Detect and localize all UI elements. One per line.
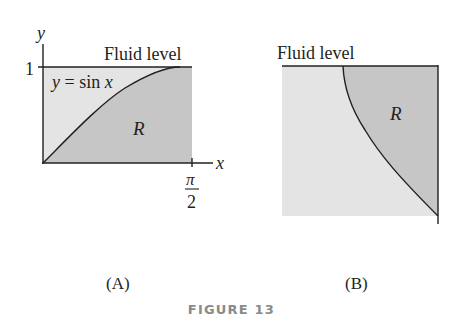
- panel-a-x-axis-label: x: [215, 153, 224, 173]
- curve-label-y: y: [50, 72, 60, 92]
- figure-13-diagram: y 1 Fluid level y = sin x R x π 2 Fluid …: [0, 0, 463, 324]
- panel-a-region-label: R: [132, 118, 145, 139]
- panel-a-two-label: 2: [187, 192, 196, 212]
- panel-b-region-label: R: [389, 103, 402, 124]
- panel-a-fluid-level-label: Fluid level: [104, 44, 182, 64]
- panel-a-y-axis-label: y: [35, 23, 45, 43]
- curve-label-eq: = sin: [60, 72, 105, 92]
- panel-a-y-tick-label: 1: [25, 59, 34, 79]
- panel-a-curve-label: y = sin x: [50, 72, 113, 92]
- panel-a: y 1 Fluid level y = sin x R x π 2: [25, 23, 224, 212]
- panel-a-pi-label: π: [186, 170, 195, 189]
- panel-b-caption: (B): [345, 274, 368, 294]
- curve-label-x: x: [104, 72, 113, 92]
- panel-b: Fluid level R: [277, 43, 438, 224]
- figure-caption: FIGURE 13: [0, 302, 463, 317]
- panel-a-caption: (A): [106, 274, 130, 294]
- panel-b-fluid-level-label: Fluid level: [277, 43, 355, 63]
